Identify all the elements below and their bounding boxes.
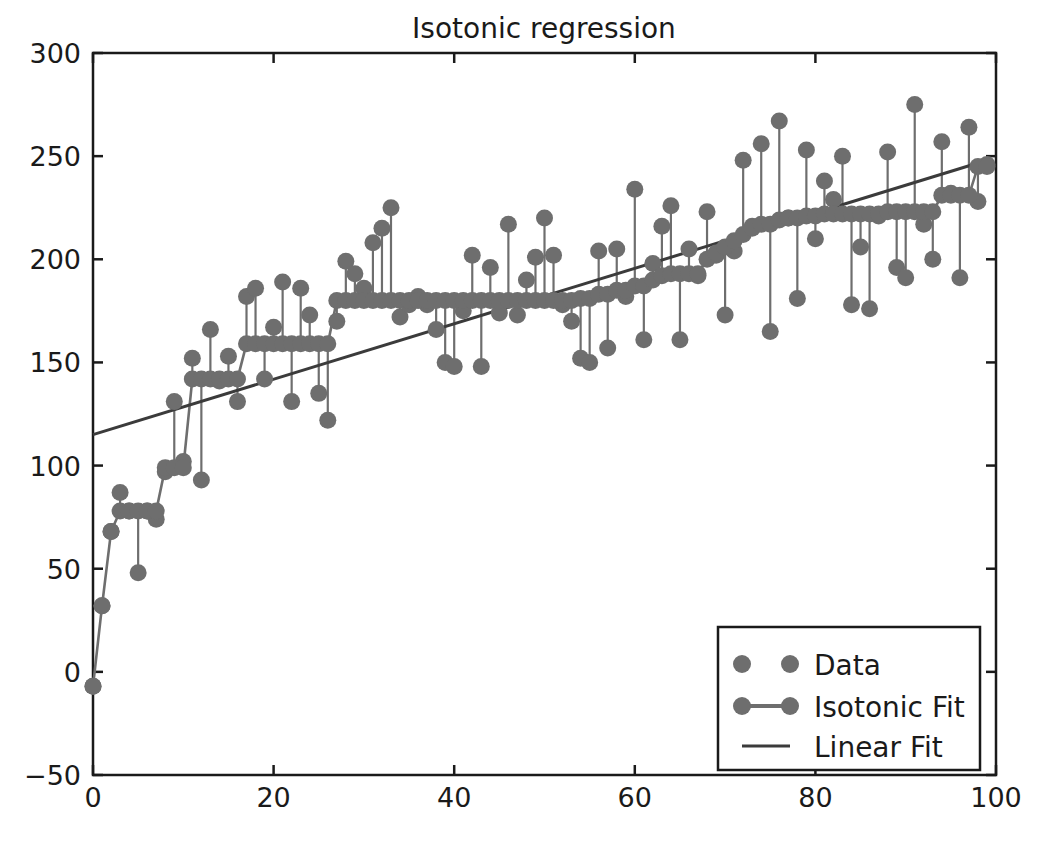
- y-tick-label: −50: [24, 760, 81, 791]
- data-point[interactable]: [653, 218, 670, 235]
- data-point[interactable]: [518, 271, 535, 288]
- data-point[interactable]: [229, 393, 246, 410]
- data-point[interactable]: [283, 393, 300, 410]
- data-point[interactable]: [762, 323, 779, 340]
- data-point[interactable]: [753, 135, 770, 152]
- data-point[interactable]: [364, 234, 381, 251]
- data-point[interactable]: [473, 358, 490, 375]
- legend[interactable]: Data Isotonic Fit Linear Fit: [718, 627, 980, 770]
- y-tick-label: 50: [47, 554, 81, 585]
- data-point[interactable]: [671, 331, 688, 348]
- data-point[interactable]: [951, 269, 968, 286]
- isotonic-fit-point[interactable]: [978, 158, 995, 175]
- data-point[interactable]: [924, 251, 941, 268]
- data-point[interactable]: [626, 181, 643, 198]
- data-point[interactable]: [933, 133, 950, 150]
- data-point[interactable]: [771, 113, 788, 130]
- data-point[interactable]: [319, 412, 336, 429]
- legend-label-data: Data: [814, 649, 881, 682]
- data-point[interactable]: [428, 321, 445, 338]
- data-point[interactable]: [301, 306, 318, 323]
- data-point[interactable]: [292, 280, 309, 297]
- data-point[interactable]: [717, 306, 734, 323]
- data-point[interactable]: [897, 269, 914, 286]
- data-point[interactable]: [446, 358, 463, 375]
- isotonic-fit-point[interactable]: [103, 523, 120, 540]
- data-point[interactable]: [193, 472, 210, 489]
- x-tick-label: 80: [798, 782, 832, 813]
- x-tick-label: 100: [970, 782, 1022, 813]
- data-point[interactable]: [563, 313, 580, 330]
- y-tick-label: 250: [29, 141, 81, 172]
- data-point[interactable]: [843, 296, 860, 313]
- data-point[interactable]: [464, 247, 481, 264]
- data-point[interactable]: [184, 350, 201, 367]
- data-point[interactable]: [256, 370, 273, 387]
- data-point[interactable]: [166, 393, 183, 410]
- data-point[interactable]: [852, 238, 869, 255]
- isotonic-fit-point[interactable]: [924, 203, 941, 220]
- data-point[interactable]: [545, 247, 562, 264]
- isotonic-fit-point[interactable]: [690, 265, 707, 282]
- data-point[interactable]: [798, 141, 815, 158]
- data-point[interactable]: [581, 354, 598, 371]
- data-point[interactable]: [202, 321, 219, 338]
- data-point[interactable]: [527, 249, 544, 266]
- x-tick-label: 60: [618, 782, 652, 813]
- isotonic-fit-point[interactable]: [960, 187, 977, 204]
- data-point[interactable]: [680, 240, 697, 257]
- isotonic-fit-point[interactable]: [175, 459, 192, 476]
- legend-marker-icon-data-left: [733, 655, 751, 673]
- data-point[interactable]: [373, 220, 390, 237]
- data-point[interactable]: [735, 152, 752, 169]
- data-point[interactable]: [346, 265, 363, 282]
- data-point[interactable]: [599, 339, 616, 356]
- data-point[interactable]: [220, 348, 237, 365]
- data-point[interactable]: [590, 243, 607, 260]
- y-tick-label: 100: [29, 451, 81, 482]
- data-point[interactable]: [382, 199, 399, 216]
- legend-marker-icon-isotonic-right: [781, 697, 799, 715]
- y-tick-label: 200: [29, 244, 81, 275]
- chart-canvas: 020406080100−50050100150200250300 Isoton…: [0, 0, 1052, 847]
- data-point[interactable]: [789, 290, 806, 307]
- data-point[interactable]: [879, 144, 896, 161]
- data-point[interactable]: [112, 484, 129, 501]
- data-point[interactable]: [960, 119, 977, 136]
- data-point[interactable]: [310, 385, 327, 402]
- data-point[interactable]: [130, 564, 147, 581]
- y-tick-label: 300: [29, 38, 81, 69]
- legend-marker-icon-isotonic-left: [733, 697, 751, 715]
- data-point[interactable]: [816, 172, 833, 189]
- data-point[interactable]: [500, 216, 517, 233]
- data-point[interactable]: [699, 203, 716, 220]
- data-point[interactable]: [662, 197, 679, 214]
- data-point[interactable]: [536, 210, 553, 227]
- isotonic-fit-point[interactable]: [319, 335, 336, 352]
- y-tick-label: 150: [29, 347, 81, 378]
- legend-marker-icon-data-right: [781, 655, 799, 673]
- y-tick-label: 0: [64, 657, 81, 688]
- data-point[interactable]: [906, 96, 923, 113]
- x-tick-label: 0: [84, 782, 101, 813]
- x-tick-label: 20: [256, 782, 290, 813]
- data-point[interactable]: [247, 280, 264, 297]
- isotonic-fit-point[interactable]: [229, 370, 246, 387]
- data-point[interactable]: [328, 313, 345, 330]
- data-point[interactable]: [608, 240, 625, 257]
- isotonic-fit-point[interactable]: [94, 597, 111, 614]
- legend-label-linear-fit: Linear Fit: [814, 731, 943, 764]
- data-point[interactable]: [834, 148, 851, 165]
- x-tick-label: 40: [437, 782, 471, 813]
- isotonic-regression-figure: 020406080100−50050100150200250300 Isoton…: [0, 0, 1052, 847]
- data-point[interactable]: [482, 259, 499, 276]
- legend-label-isotonic-fit: Isotonic Fit: [814, 691, 965, 724]
- page-title: Isotonic regression: [412, 12, 676, 45]
- data-point[interactable]: [861, 300, 878, 317]
- data-point[interactable]: [265, 319, 282, 336]
- data-point[interactable]: [807, 230, 824, 247]
- isotonic-fit-point[interactable]: [85, 678, 102, 695]
- data-point[interactable]: [635, 331, 652, 348]
- data-point[interactable]: [274, 273, 291, 290]
- isotonic-fit-point[interactable]: [148, 502, 165, 519]
